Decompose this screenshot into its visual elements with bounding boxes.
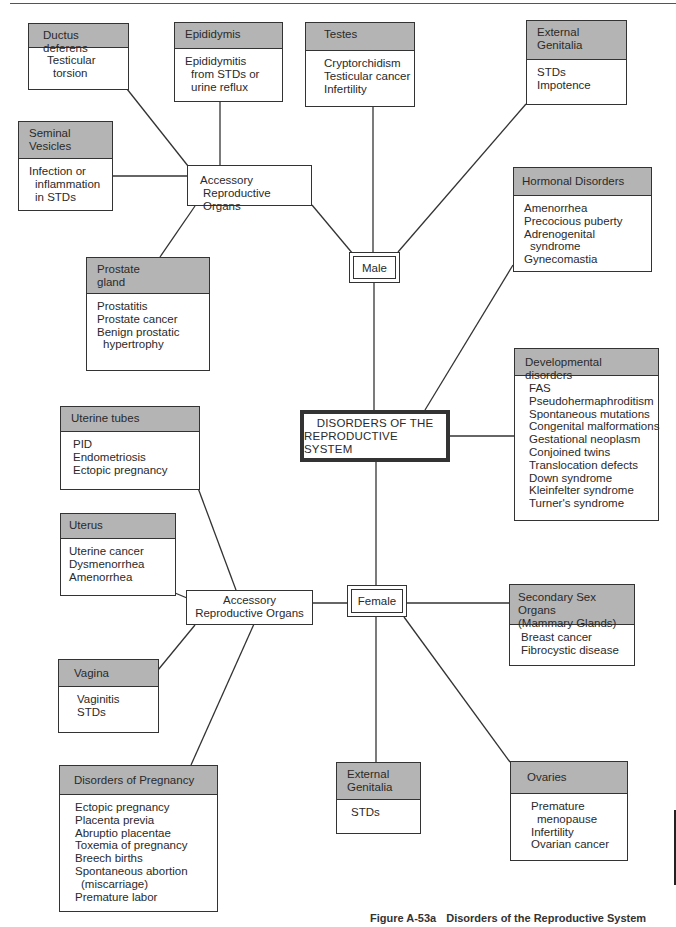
box-items: PID Endometriosis Ectopic pregnancy <box>61 432 199 482</box>
box-items: Amenorrhea Precocious puberty Adrenogeni… <box>514 196 651 272</box>
female-accessory-organs-box: Accessory Reproductive Organs <box>186 590 313 625</box>
box-title: Uterus <box>61 514 175 539</box>
box-title: Hormonal Disorders <box>514 168 651 196</box>
box-items: Prostatitis Prostate cancer Benign prost… <box>87 294 209 357</box>
box-title: Seminal Vesicles <box>19 122 112 159</box>
box-title: Ductus deferens <box>29 24 128 48</box>
box-items: FAS Pseudohermaphroditism Spontaneous mu… <box>515 376 658 516</box>
box-title: Vagina <box>59 660 158 687</box>
box-items: Cryptorchidism Testicular cancer Inferti… <box>306 51 414 101</box>
uterus-box: Uterus Uterine cancer Dysmenorrhea Ameno… <box>60 513 176 596</box>
box-title: External Genitalia <box>337 763 420 800</box>
box-items: Breast cancer Fibrocystic disease <box>510 625 634 663</box>
box-items: Infection or inflammation in STDs <box>19 159 112 209</box>
box-items: Epididymitis from STDs or urine reflux <box>175 49 282 99</box>
seminal-vesicles-box: Seminal Vesicles Infection or inflammati… <box>18 121 113 211</box>
male-external-genitalia-box: External Genitalia STDs Impotence <box>526 20 627 105</box>
prostate-gland-box: Prostate gland Prostatitis Prostate canc… <box>86 257 210 371</box>
box-items: STDs <box>337 800 420 825</box>
figure-caption: Figure A-53aDisorders of the Reproductiv… <box>370 912 646 924</box>
box-items: Premature menopause Infertility Ovarian … <box>511 794 627 857</box>
box-title: Epididymis <box>175 23 282 49</box>
box-title: Disorders of Pregnancy <box>60 766 217 795</box>
box-items: Ectopic pregnancy Placenta previa Abrupt… <box>60 795 217 909</box>
uterine-tubes-box: Uterine tubes PID Endometriosis Ectopic … <box>60 406 200 490</box>
box-title: External Genitalia <box>527 21 626 60</box>
epididymis-box: Epididymis Epididymitis from STDs or uri… <box>174 22 283 102</box>
male-node: Male <box>349 252 400 283</box>
box-title: Secondary Sex Organs (Mammary Glands) <box>510 585 634 625</box>
box-title: Prostate gland <box>87 258 209 294</box>
hormonal-disorders-box: Hormonal Disorders Amenorrhea Precocious… <box>513 167 652 272</box>
box-title: Developmental disorders <box>515 349 658 376</box>
box-title: Ovaries <box>511 762 627 794</box>
figure-number: Figure A-53a <box>370 912 436 924</box>
box-items: STDs Impotence <box>527 60 626 98</box>
figure-title: Disorders of the Reproductive System <box>446 912 646 924</box>
testes-box: Testes Cryptorchidism Testicular cancer … <box>305 22 415 107</box>
male-accessory-organs-box: Accessory Reproductive Organs <box>187 165 312 206</box>
central-topic-box: DISORDERS OF THE REPRODUCTIVE SYSTEM <box>300 410 450 462</box>
vagina-box: Vagina Vaginitis STDs <box>58 659 159 733</box>
disorders-of-pregnancy-box: Disorders of Pregnancy Ectopic pregnancy… <box>59 765 218 912</box>
ductus-deferens-box: Ductus deferens Testicular torsion <box>28 23 129 90</box>
female-node: Female <box>347 585 407 617</box>
secondary-sex-organs-box: Secondary Sex Organs (Mammary Glands) Br… <box>509 584 635 666</box>
box-title: Uterine tubes <box>61 407 199 432</box>
box-items: Vaginitis STDs <box>59 687 158 725</box>
box-items: Uterine cancer Dysmenorrhea Amenorrhea <box>61 539 175 589</box>
ovaries-box: Ovaries Premature menopause Infertility … <box>510 761 628 861</box>
box-title: Testes <box>306 23 414 51</box>
female-external-genitalia-box: External Genitalia STDs <box>336 762 421 834</box>
developmental-disorders-box: Developmental disorders FAS Pseudohermap… <box>514 348 659 521</box>
